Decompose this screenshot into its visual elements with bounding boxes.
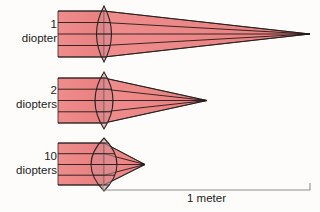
power-label-row-3: 10 diopters: [0, 150, 57, 177]
power-number-row-2: 2: [0, 84, 57, 98]
power-unit-row-1: diopter: [0, 32, 57, 46]
power-number-row-3: 10: [0, 150, 57, 164]
power-unit-row-2: diopters: [0, 98, 57, 112]
power-label-row-1: 1 diopter: [0, 18, 57, 45]
power-unit-row-3: diopters: [0, 164, 57, 178]
power-number-row-1: 1: [0, 18, 57, 32]
lens-diopter-diagram: 1 diopter 2 diopters 10 diopters 1 meter: [0, 0, 320, 212]
scale-bar-label: 1 meter: [103, 192, 310, 204]
power-label-row-2: 2 diopters: [0, 84, 57, 111]
